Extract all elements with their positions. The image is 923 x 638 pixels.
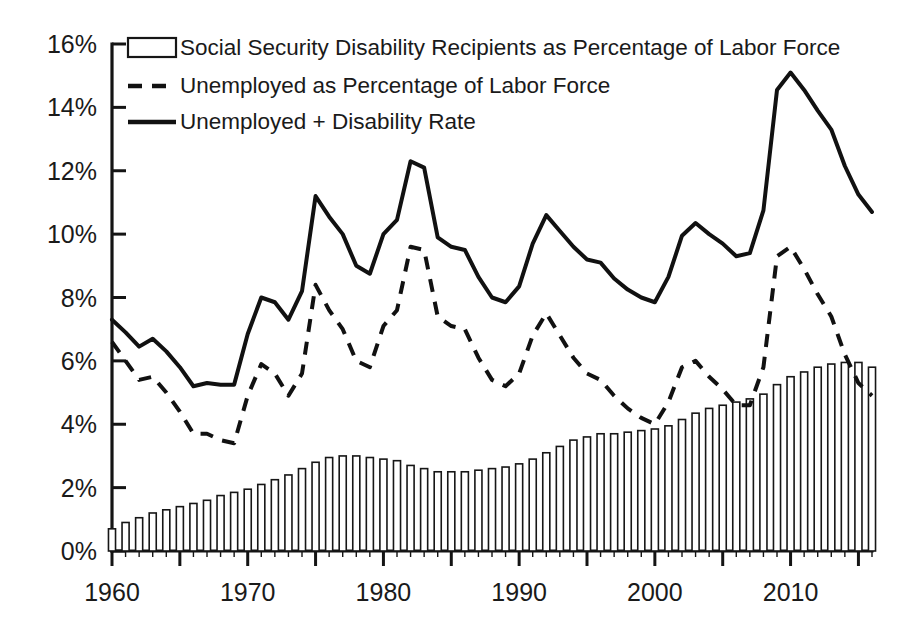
bar — [773, 385, 780, 551]
x-axis-group: 196019701980199020002010 — [84, 551, 872, 606]
bar — [678, 420, 685, 552]
bar — [339, 456, 346, 551]
x-axis-tick-labels: 196019701980199020002010 — [84, 578, 818, 606]
bar — [108, 529, 115, 551]
y-axis-tick-label: 16% — [47, 30, 97, 58]
bar — [326, 458, 333, 551]
bar — [190, 503, 197, 551]
bar — [543, 453, 550, 551]
bar — [733, 402, 740, 551]
y-axis-tick-label: 12% — [47, 157, 97, 185]
bar — [814, 367, 821, 551]
x-axis-tick-label: 1980 — [356, 578, 412, 606]
bar — [461, 472, 468, 551]
bar — [407, 465, 414, 551]
y-axis-tick-label: 14% — [47, 93, 97, 121]
legend-label: Unemployed as Percentage of Labor Force — [180, 73, 610, 98]
bar — [529, 459, 536, 551]
bar — [366, 458, 373, 551]
bar — [855, 362, 862, 551]
bar — [665, 426, 672, 551]
bar — [828, 364, 835, 551]
bar — [136, 518, 143, 551]
y-axis-tick-label: 2% — [61, 474, 97, 502]
bar — [176, 507, 183, 551]
bar — [583, 437, 590, 551]
x-axis-tick-label: 2000 — [627, 578, 683, 606]
bar — [475, 470, 482, 551]
legend-item: Unemployed + Disability Rate — [128, 109, 476, 134]
bar — [122, 522, 129, 551]
bar — [570, 440, 577, 551]
bar — [149, 513, 156, 551]
bar — [502, 467, 509, 551]
chart-legend: Social Security Disability Recipients as… — [128, 35, 840, 134]
bar — [163, 510, 170, 551]
y-axis-tick-label: 4% — [61, 410, 97, 438]
series-unemployment-dashed-line — [112, 247, 872, 443]
bar — [448, 472, 455, 551]
bar — [638, 431, 645, 551]
bar — [298, 469, 305, 551]
legend-marker-hollow-box-icon — [128, 38, 176, 57]
bar — [258, 484, 265, 551]
bar — [516, 464, 523, 551]
legend-label: Social Security Disability Recipients as… — [180, 35, 840, 60]
bar — [285, 475, 292, 551]
x-axis-tick-label: 2010 — [763, 578, 819, 606]
bar — [434, 472, 441, 551]
bar — [312, 462, 319, 551]
bar — [706, 408, 713, 551]
bar — [841, 362, 848, 551]
bar — [719, 405, 726, 551]
bar — [217, 496, 224, 551]
x-axis-tick-label: 1970 — [220, 578, 276, 606]
bar — [624, 432, 631, 551]
y-axis-tick-label: 8% — [61, 284, 97, 312]
legend-label: Unemployed + Disability Rate — [180, 109, 476, 134]
bar — [746, 399, 753, 551]
y-axis-tick-label: 6% — [61, 347, 97, 375]
bar — [760, 394, 767, 551]
bar — [380, 459, 387, 551]
bar — [597, 434, 604, 551]
y-axis-tick-label: 10% — [47, 220, 97, 248]
bar — [353, 456, 360, 551]
bar — [611, 434, 618, 551]
chart-container: 0%2%4%6%8%10%12%14%16% 19601970198019902… — [0, 0, 923, 638]
bar — [203, 500, 210, 551]
bar — [488, 469, 495, 551]
legend-item: Unemployed as Percentage of Labor Force — [128, 73, 610, 98]
bar — [651, 429, 658, 551]
bar — [393, 461, 400, 551]
x-axis-tick-label: 1960 — [84, 578, 140, 606]
y-axis-group: 0%2%4%6%8%10%12%14%16% — [47, 30, 126, 565]
bar — [231, 492, 238, 551]
x-axis-minor-ticks — [112, 551, 872, 566]
bar — [801, 372, 808, 551]
bar — [421, 469, 428, 551]
bar — [787, 377, 794, 551]
bar — [556, 446, 563, 551]
y-axis-ticks — [112, 44, 126, 551]
y-axis-tick-label: 0% — [61, 537, 97, 565]
bar-series-disability — [108, 362, 875, 551]
bar — [692, 413, 699, 551]
bar — [244, 489, 251, 551]
bar — [271, 480, 278, 551]
x-axis-tick-label: 1990 — [491, 578, 547, 606]
legend-item: Social Security Disability Recipients as… — [128, 35, 840, 60]
chart-canvas: 0%2%4%6%8%10%12%14%16% 19601970198019902… — [0, 0, 923, 638]
y-axis-tick-labels: 0%2%4%6%8%10%12%14%16% — [47, 30, 97, 565]
